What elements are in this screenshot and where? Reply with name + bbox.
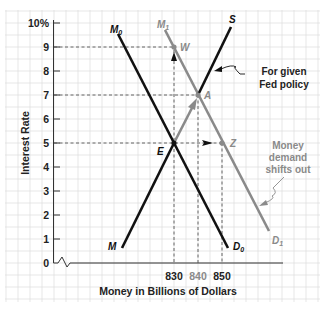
y-tick-9: 9 — [43, 41, 49, 53]
x-axis-title: Money in Billions of Dollars — [99, 285, 237, 297]
supply-curve-upper — [198, 27, 231, 95]
label-e: E — [157, 146, 164, 157]
y-tick-6: 6 — [43, 113, 49, 125]
annotation-demand-line1: Money — [272, 140, 304, 151]
y-tick-5: 5 — [43, 137, 49, 149]
e-to-a-arrowhead-icon — [188, 98, 197, 110]
label-z: Z — [229, 138, 237, 149]
label-a: A — [203, 90, 211, 101]
y-tick-8: 8 — [43, 65, 49, 77]
label-w: W — [180, 42, 191, 53]
y-tick-7: 7 — [43, 89, 49, 101]
x-tick-850: 850 — [213, 270, 231, 282]
annotation-demand-line3: shifts out — [266, 164, 312, 175]
label-m: M — [108, 241, 117, 252]
annotation-fed-line1: For given — [261, 66, 306, 77]
y-tick-2: 2 — [43, 209, 49, 221]
label-m0: M0 — [110, 24, 122, 36]
label-s: S — [229, 14, 236, 25]
point-a — [195, 92, 200, 97]
x-tick-830: 830 — [165, 270, 183, 282]
label-d0: D0 — [233, 241, 244, 253]
y-tick-3: 3 — [43, 185, 49, 197]
e-to-a-arrow-shaft — [175, 106, 193, 141]
y-tick-0: 0 — [43, 257, 49, 269]
x-axis — [54, 257, 284, 267]
label-d1: D1 — [272, 235, 283, 247]
point-e — [171, 140, 176, 145]
money-market-chart: 10% 9 8 7 6 5 4 3 2 1 0 Interest Rate 83… — [0, 0, 325, 311]
y-tick-1: 1 — [43, 233, 49, 245]
annotation-demand-line2: demand — [269, 152, 307, 163]
point-z — [219, 140, 224, 145]
annotation-fed-line2: Fed policy — [259, 79, 309, 90]
annotation-demand-shift: Money demand shifts out — [259, 140, 311, 206]
y-tick-10: 10% — [28, 17, 50, 29]
x-tick-840: 840 — [189, 270, 207, 282]
label-m1: M1 — [157, 19, 169, 31]
y-tick-4: 4 — [43, 161, 49, 173]
supply-curve-lower — [122, 143, 174, 248]
annotation-fed-policy: For given Fed policy — [214, 66, 309, 90]
point-w — [171, 44, 176, 49]
y-axis-title: Interest Rate — [19, 111, 31, 175]
annotation-arrow-icon — [214, 66, 222, 72]
